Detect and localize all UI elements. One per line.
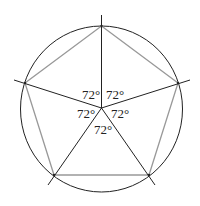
radial-lines	[14, 15, 190, 185]
angle-label-left: 72°	[77, 106, 95, 121]
angle-labels: 72° 72° 72° 72° 72°	[77, 87, 129, 137]
angle-label-right: 72°	[111, 106, 129, 121]
pentagon-diagram: 72° 72° 72° 72° 72°	[0, 0, 200, 206]
angle-label-upper-right: 72°	[106, 87, 124, 102]
angle-label-bottom: 72°	[94, 122, 112, 137]
angle-label-upper-left: 72°	[82, 87, 100, 102]
